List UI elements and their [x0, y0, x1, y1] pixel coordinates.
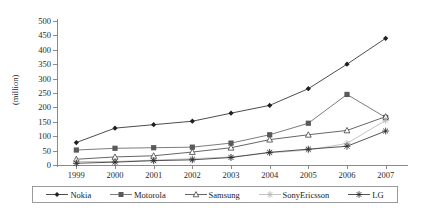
- y-tick-label: 350: [38, 60, 51, 69]
- series-layer: [57, 21, 405, 165]
- x-tick-label: 2005: [300, 171, 317, 180]
- plot-area: 050100150200250300350400450500 199920002…: [57, 21, 405, 165]
- x-tick-mark: [192, 165, 193, 169]
- x-tick-mark: [386, 165, 387, 169]
- x-tick-label: 2007: [377, 171, 394, 180]
- y-tick-label: 100: [38, 132, 51, 141]
- legend-label: SonyEricsson: [283, 190, 330, 200]
- data-point-marker: [344, 143, 351, 150]
- y-tick-label: 500: [38, 17, 51, 26]
- legend-marker-icon: [185, 190, 207, 199]
- x-tick-mark: [308, 165, 309, 169]
- data-point-marker: [266, 191, 273, 198]
- data-point-marker: [112, 126, 117, 131]
- series-line: [76, 38, 385, 142]
- legend-marker-icon: [259, 190, 281, 199]
- legend-label: LG: [372, 190, 383, 200]
- data-point-marker: [344, 127, 350, 132]
- x-tick-mark: [115, 165, 116, 169]
- data-point-marker: [383, 36, 388, 41]
- legend-label: Samsung: [209, 190, 240, 200]
- y-tick-label: 150: [38, 118, 51, 127]
- data-point-marker: [382, 128, 389, 135]
- legend-marker-icon: [348, 190, 370, 199]
- data-point-marker: [306, 121, 311, 126]
- data-point-marker: [267, 103, 272, 108]
- data-point-marker: [112, 159, 119, 166]
- y-tick-label: 250: [38, 89, 51, 98]
- y-tick-label: 0: [47, 161, 51, 170]
- legend-item-samsung[interactable]: Samsung: [185, 190, 240, 200]
- x-tick-label: 2003: [223, 171, 240, 180]
- data-point-marker: [305, 146, 312, 153]
- x-tick-label: 2006: [339, 171, 356, 180]
- x-tick-label: 2002: [184, 171, 201, 180]
- data-point-marker: [189, 156, 196, 163]
- y-tick-label: 450: [38, 31, 51, 40]
- data-point-marker: [112, 146, 117, 151]
- legend-item-motorola[interactable]: Motorola: [110, 190, 166, 200]
- data-point-marker: [344, 62, 349, 67]
- data-point-marker: [306, 86, 311, 91]
- x-tick-label: 2001: [145, 171, 162, 180]
- data-point-marker: [190, 119, 195, 124]
- data-point-marker: [74, 147, 79, 152]
- x-tick-mark: [154, 165, 155, 169]
- data-point-marker: [119, 192, 124, 197]
- data-point-marker: [151, 145, 156, 150]
- x-tick-label: 2000: [107, 171, 124, 180]
- data-point-marker: [150, 157, 157, 164]
- series-motorola: [74, 92, 389, 153]
- x-tick-mark: [347, 165, 348, 169]
- legend-label: Motorola: [134, 190, 166, 200]
- y-tick-label: 400: [38, 46, 51, 55]
- series-line: [76, 117, 385, 160]
- data-point-marker: [344, 92, 349, 97]
- data-point-marker: [228, 154, 235, 161]
- x-tick-mark: [231, 165, 232, 169]
- chart-legend: NokiaMotorolaSamsungSonyEricssonLG: [32, 186, 398, 203]
- data-point-marker: [382, 117, 389, 124]
- x-tick-label: 1999: [68, 171, 85, 180]
- y-tick-label: 200: [38, 103, 51, 112]
- data-point-marker: [73, 160, 80, 167]
- legend-item-sonyericsson[interactable]: SonyEricsson: [259, 190, 330, 200]
- line-chart: (million) 050100150200250300350400450500…: [0, 0, 430, 210]
- series-nokia: [74, 36, 389, 145]
- y-axis-title: (million): [10, 75, 20, 105]
- y-tick-mark: [53, 165, 57, 166]
- legend-marker-icon: [46, 190, 68, 199]
- x-tick-label: 2004: [261, 171, 278, 180]
- data-point-marker: [55, 192, 60, 197]
- legend-label: Nokia: [70, 190, 91, 200]
- y-tick-label: 300: [38, 74, 51, 83]
- x-axis-line: [56, 165, 408, 166]
- legend-item-lg[interactable]: LG: [348, 190, 383, 200]
- legend-marker-icon: [110, 190, 132, 199]
- x-tick-mark: [270, 165, 271, 169]
- data-point-marker: [74, 140, 79, 145]
- data-point-marker: [228, 111, 233, 116]
- data-point-marker: [151, 122, 156, 127]
- legend-item-nokia[interactable]: Nokia: [46, 190, 91, 200]
- data-point-marker: [356, 191, 363, 198]
- y-tick-label: 50: [43, 146, 52, 155]
- data-point-marker: [266, 149, 273, 156]
